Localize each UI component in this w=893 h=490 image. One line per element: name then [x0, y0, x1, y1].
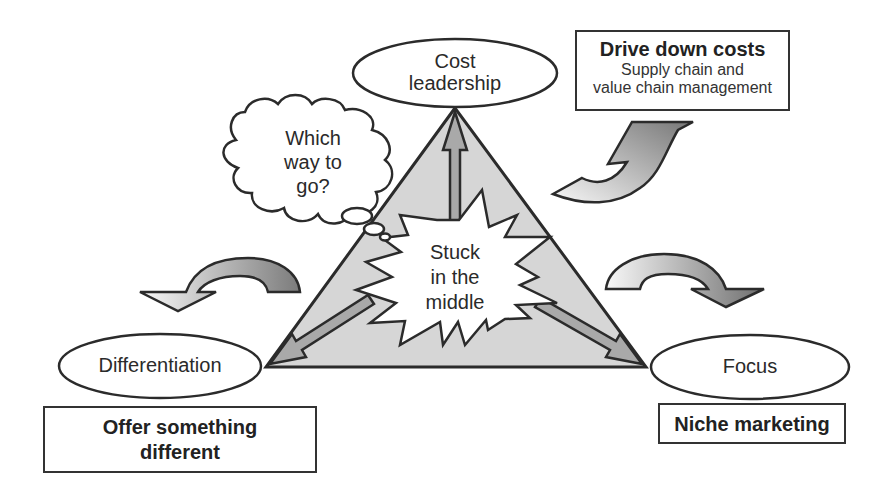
niche-marketing-title: Niche marketing: [660, 413, 844, 436]
offer-line2: different: [45, 440, 315, 465]
curved-arrow-down-right-icon: [606, 254, 764, 307]
burst-line2: in the: [400, 265, 510, 290]
thought-line3: go?: [258, 174, 368, 198]
offer-line1: Offer something: [45, 415, 315, 440]
cost-leadership-label: Cost leadership: [380, 50, 530, 95]
drive-down-costs-sub2: value chain management: [577, 79, 788, 97]
focus-text: Focus: [723, 355, 777, 377]
differentiation-text: Differentiation: [98, 354, 221, 376]
thought-line2: way to: [258, 150, 368, 174]
curved-arrow-down-left-icon: [140, 258, 300, 311]
thought-bubble-text: Which way to go?: [258, 126, 368, 198]
drive-down-costs-title: Drive down costs: [577, 38, 788, 61]
drive-down-costs-sub1: Supply chain and: [577, 61, 788, 79]
differentiation-label: Differentiation: [70, 354, 250, 376]
thought-line1: Which: [258, 126, 368, 150]
burst-line1: Stuck: [400, 240, 510, 265]
cost-leadership-line2: leadership: [380, 72, 530, 94]
curved-arrow-up-right-icon: [553, 122, 693, 202]
stuck-in-middle-text: Stuck in the middle: [400, 240, 510, 315]
niche-marketing-box: Niche marketing: [658, 403, 846, 444]
cost-leadership-line1: Cost: [380, 50, 530, 72]
drive-down-costs-box: Drive down costs Supply chain and value …: [575, 30, 790, 111]
burst-line3: middle: [400, 290, 510, 315]
offer-something-different-box: Offer something different: [43, 406, 317, 473]
focus-label: Focus: [680, 355, 820, 377]
